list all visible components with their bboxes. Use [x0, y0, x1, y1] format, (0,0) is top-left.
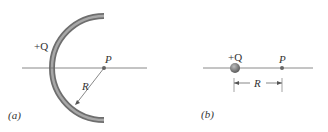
radius-line [76, 68, 104, 104]
diagram-canvas [0, 0, 328, 132]
radius-label-a: R [82, 80, 89, 92]
dim-arrow-right [277, 81, 282, 85]
dim-arrow-left [234, 81, 239, 85]
caption-a: (a) [8, 109, 21, 121]
charge-label-a: +Q [34, 40, 48, 52]
point-label-b: P [279, 53, 286, 65]
caption-b: (b) [201, 108, 214, 120]
point-charge [230, 63, 240, 73]
charge-label-b: +Q [228, 51, 242, 63]
figure-a [22, 16, 147, 120]
distance-label-b: R [254, 77, 261, 89]
point-label-a: P [105, 53, 112, 65]
radius-arrowhead [75, 100, 80, 105]
point-p-b [280, 66, 284, 70]
